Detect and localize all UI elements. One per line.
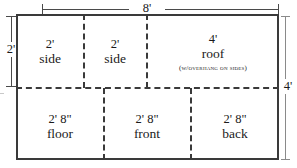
cell-floor: 2' 8" floor xyxy=(18,100,102,154)
cell-side-1: 2' side xyxy=(18,22,82,82)
cell-back: 2' 8" back xyxy=(192,100,278,154)
cell-roof: 4' roof (w/overhang on sides) xyxy=(148,20,278,84)
cell-floor-dimension: 2' 8" xyxy=(49,112,72,127)
cell-back-label: back xyxy=(222,126,247,142)
cell-front: 2' 8" front xyxy=(105,100,189,154)
cell-roof-note: (w/overhang on sides) xyxy=(179,64,247,72)
dimension-tick-right-top xyxy=(281,16,290,17)
diagram-canvas: 8' 2' 4' 2' side 2' side 4' roof (w/over… xyxy=(0,0,297,168)
cell-side-2-dimension: 2' xyxy=(111,37,120,52)
cell-front-dimension: 2' 8" xyxy=(136,112,159,127)
cell-roof-dimension: 4' xyxy=(209,32,218,47)
cell-side-1-dimension: 2' xyxy=(46,37,55,52)
dimension-label-right-height: 4' xyxy=(279,79,297,94)
cell-roof-label: roof xyxy=(202,46,225,62)
edge-crop-mark xyxy=(0,93,4,94)
cell-side-1-label: side xyxy=(39,51,61,67)
dimension-tick-right-bottom xyxy=(281,159,290,160)
cell-side-2: 2' side xyxy=(85,22,145,82)
cell-back-dimension: 2' 8" xyxy=(224,112,247,127)
cell-front-label: front xyxy=(134,126,160,142)
cell-floor-label: floor xyxy=(47,126,73,142)
cell-side-2-label: side xyxy=(104,51,126,67)
